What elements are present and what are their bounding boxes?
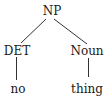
syntax-tree: NP DET Noun no thing (0, 0, 106, 101)
edge-np-noun (54, 19, 87, 44)
edge-np-det (21, 19, 46, 43)
node-det: DET (4, 45, 30, 57)
node-noun: Noun (70, 45, 103, 57)
leaf-no: no (11, 83, 26, 95)
node-np: NP (43, 5, 62, 17)
leaf-thing: thing (71, 83, 103, 95)
